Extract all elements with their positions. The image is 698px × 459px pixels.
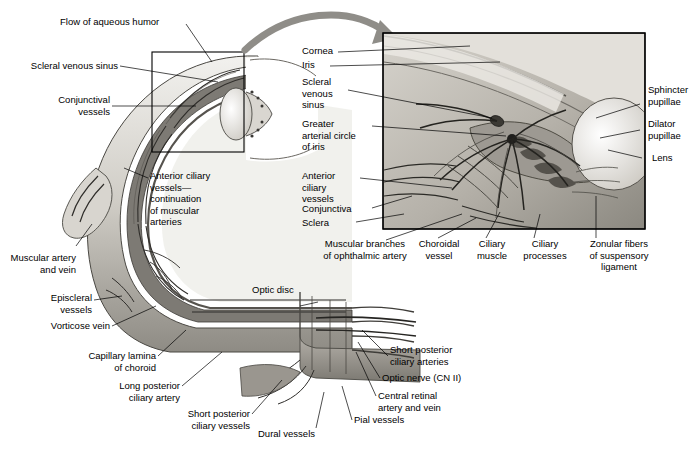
label-conjunctival-vessels: Conjunctival vessels (0, 94, 110, 117)
label-anterior-ciliary-vessels: Anterior ciliary vessels— continuation o… (150, 170, 210, 228)
label-episcleral-vessels: Episcleral vessels (0, 292, 92, 315)
label-optic-nerve: Optic nerve (CN II) (382, 372, 461, 384)
label-pial-vessels: Pial vessels (354, 414, 404, 426)
inset-label-iris: Iris (302, 59, 315, 71)
inset-label-dilator-pupillae: Dilator pupillae (648, 118, 681, 141)
label-scleral-venous-sinus: Scleral venous sinus (0, 60, 118, 72)
label-optic-disc: Optic disc (252, 284, 294, 296)
inset-label-ciliary-muscle: Ciliary muscle (468, 238, 516, 261)
inset-label-cornea: Cornea (302, 45, 333, 57)
inset-label-ciliary-processes: Ciliary processes (518, 238, 572, 261)
label-flow-of-aqueous-humor: Flow of aqueous humor (60, 16, 159, 28)
leader-lines-inset (330, 46, 642, 240)
inset-label-lens: Lens (652, 152, 673, 164)
label-short-posterior-ciliary-vessels: Short posterior ciliary vessels (128, 408, 250, 431)
label-dural-vessels: Dural vessels (258, 428, 315, 440)
label-capillary-lamina-of-choroid: Capillary lamina of choroid (48, 350, 156, 373)
label-central-retinal-artery-and-vein: Central retinal artery and vein (378, 390, 441, 413)
inset-label-anterior-ciliary-vessels: Anterior ciliary vessels (302, 170, 335, 205)
label-short-posterior-ciliary-arteries: Short posterior ciliary arteries (390, 344, 452, 367)
label-muscular-artery-and-vein: Muscular artery and vein (0, 252, 76, 275)
inset-source-box (152, 52, 244, 152)
inset-label-zonular-fibers: Zonular fibers of suspensory ligament (576, 238, 662, 273)
muscular-artery-vein-stub (62, 168, 112, 238)
inset-label-conjunctiva: Conjunctiva (302, 203, 352, 215)
inset-label-sphincter-pupillae: Sphincter pupillae (648, 84, 688, 107)
label-vorticose-vein: Vorticose vein (0, 320, 110, 332)
inset-label-sclera: Sclera (302, 217, 329, 229)
figure-canvas: Flow of aqueous humor Scleral venous sin… (0, 0, 698, 459)
label-long-posterior-ciliary-artery: Long posterior ciliary artery (66, 380, 180, 403)
inset-label-scleral-venous-sinus: Scleral venous sinus (302, 76, 333, 111)
inset-label-greater-arterial-circle-of-iris: Greater arterial circle of iris (302, 118, 356, 153)
inset-label-choroidal-vessel: Choroidal vessel (408, 238, 470, 261)
inset-illustration (383, 33, 656, 229)
